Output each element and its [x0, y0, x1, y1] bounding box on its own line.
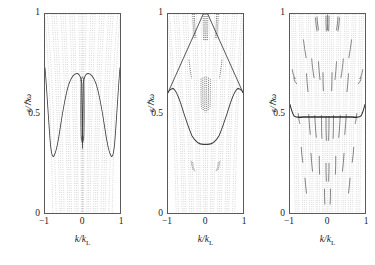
- background-bands-middle: [168, 14, 243, 213]
- x-axis-label: k/kL: [44, 234, 121, 247]
- plot-svg-middle: [168, 14, 243, 213]
- y-tick-1: 1: [14, 7, 40, 17]
- x-tick-minus-1: −1: [279, 216, 299, 226]
- plot-area-left: [44, 13, 121, 214]
- y-tick-1: 1: [259, 7, 285, 17]
- plot-svg-left: [45, 14, 120, 213]
- y-tick-1: 1: [137, 7, 163, 17]
- plot-area-middle: [167, 13, 244, 214]
- y-axis-label: ε/ℏω: [23, 73, 33, 133]
- background-bands-right: [292, 14, 364, 213]
- panel-middle: 1 0.5 0 ε/ℏω: [123, 0, 248, 265]
- plot-svg-right: [290, 14, 365, 213]
- x-axis-label: k/kL: [289, 234, 366, 247]
- x-tick-1: 1: [356, 216, 375, 226]
- fragmented-branches-right: [292, 15, 363, 204]
- x-tick-0: 0: [72, 216, 92, 226]
- x-tick-minus-1: −1: [157, 216, 177, 226]
- x-axis-label: k/kL: [167, 234, 244, 247]
- figure-container: 1 0.5 0 ε/ℏω: [0, 0, 375, 265]
- panel-left: 1 0.5 0 ε/ℏω: [0, 0, 125, 265]
- x-tick-0: 0: [317, 216, 337, 226]
- x-tick-0: 0: [195, 216, 215, 226]
- y-axis-label: ε/ℏω: [268, 73, 278, 133]
- panel-right: 1 0.5 0 ε/ℏω: [245, 0, 370, 265]
- y-axis-label: ε/ℏω: [146, 73, 156, 133]
- x-tick-minus-1: −1: [34, 216, 54, 226]
- plot-area-right: [289, 13, 366, 214]
